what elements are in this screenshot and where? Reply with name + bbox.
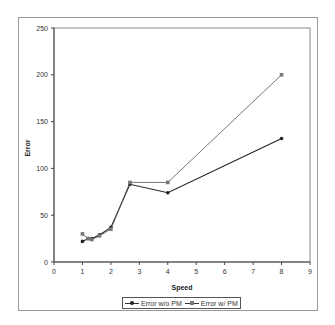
data-point [90, 238, 94, 242]
data-point [81, 232, 85, 236]
data-point [86, 237, 90, 241]
legend-item-without-pm: Error w/o PM [125, 300, 182, 307]
data-point [166, 181, 170, 185]
circle-marker-icon [125, 300, 139, 306]
y-tick-label: 150 [36, 118, 48, 125]
x-tick-label: 1 [80, 268, 84, 275]
data-point [81, 240, 85, 244]
y-tick-label: 100 [36, 165, 48, 172]
legend-item-with-pm: Error w/ PM [185, 300, 238, 307]
data-point [109, 227, 113, 231]
x-tick-label: 6 [223, 268, 227, 275]
x-axis-title: Speed [171, 284, 192, 292]
square-marker-icon [185, 300, 199, 306]
y-tick-label: 250 [36, 25, 48, 32]
y-tick-label: 50 [40, 212, 48, 219]
x-tick-label: 9 [308, 268, 312, 275]
data-point [98, 234, 102, 238]
legend-label: Error w/ PM [201, 300, 238, 307]
series-line [82, 75, 281, 240]
x-tick-label: 0 [52, 268, 56, 275]
data-point [166, 191, 170, 195]
data-point [280, 137, 284, 141]
x-tick-label: 8 [280, 268, 284, 275]
x-tick-label: 2 [109, 268, 113, 275]
y-axis-title: Error [24, 139, 31, 156]
y-tick-label: 200 [36, 71, 48, 78]
axes: 0123456789050100150200250 [36, 25, 312, 276]
x-tick-label: 4 [166, 268, 170, 275]
legend: Error w/o PM Error w/ PM [122, 297, 241, 309]
x-tick-label: 7 [251, 268, 255, 275]
legend-label: Error w/o PM [141, 300, 182, 307]
y-tick-label: 0 [44, 259, 48, 266]
data-point [128, 181, 132, 185]
x-tick-label: 5 [194, 268, 198, 275]
data-point [280, 73, 284, 77]
line-chart: 0123456789050100150200250 Speed Error [0, 0, 335, 325]
series-group [81, 73, 284, 243]
x-tick-label: 3 [137, 268, 141, 275]
